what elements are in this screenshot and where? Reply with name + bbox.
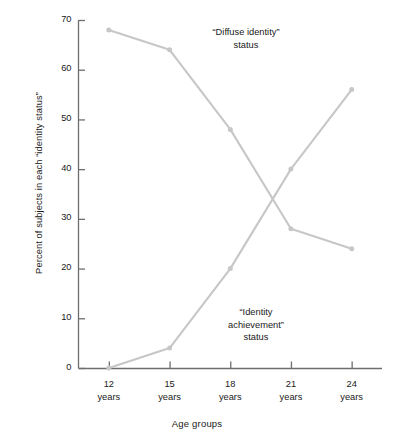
x-axis-tick-label: 24years: [317, 378, 387, 403]
x-tick-unit: years: [317, 391, 387, 404]
x-tick-age: 18: [195, 378, 265, 391]
x-axis-tick-label: 18years: [195, 378, 265, 403]
line-chart: Percent of subjects in each “identity st…: [0, 0, 394, 443]
data-point-marker: [288, 226, 293, 231]
x-tick-unit: years: [256, 391, 326, 404]
y-axis-title: Percent of subjects in each “identity st…: [34, 43, 44, 323]
y-axis-tick-label: 50: [38, 113, 72, 123]
data-point-marker: [349, 246, 354, 251]
x-axis-ticks: [109, 362, 352, 369]
annotation-identity-achievement-status: “Identity achievement” status: [196, 306, 316, 344]
data-point-marker: [349, 87, 354, 92]
data-point-marker: [228, 266, 233, 271]
x-tick-age: 21: [256, 378, 326, 391]
x-axis-tick-label: 15years: [135, 378, 205, 403]
x-tick-age: 24: [317, 378, 387, 391]
data-point-marker: [167, 346, 172, 351]
y-axis-tick-label: 40: [38, 163, 72, 173]
x-axis-title: Age groups: [0, 418, 394, 429]
y-axis-tick-label: 10: [38, 312, 72, 322]
series-line-diffuse-identity: [109, 30, 352, 249]
y-axis-tick-label: 30: [38, 212, 72, 222]
y-axis-tick-label: 0: [38, 362, 72, 372]
x-tick-age: 12: [74, 378, 144, 391]
data-point-marker: [167, 47, 172, 52]
annotation-diffuse-identity-status: “Diffuse identity” status: [182, 26, 310, 51]
x-axis-tick-label: 21years: [256, 378, 326, 403]
y-axis-tick-label: 70: [38, 14, 72, 24]
y-axis-tick-label: 60: [38, 63, 72, 73]
y-axis-tick-label: 20: [38, 262, 72, 272]
x-axis-tick-label: 12years: [74, 378, 144, 403]
x-tick-age: 15: [135, 378, 205, 391]
data-point-marker: [228, 127, 233, 132]
x-tick-unit: years: [195, 391, 265, 404]
data-point-marker: [106, 366, 111, 371]
x-tick-unit: years: [74, 391, 144, 404]
x-tick-unit: years: [135, 391, 205, 404]
data-point-marker: [106, 27, 111, 32]
data-point-marker: [288, 167, 293, 172]
y-axis-ticks: [79, 21, 86, 369]
